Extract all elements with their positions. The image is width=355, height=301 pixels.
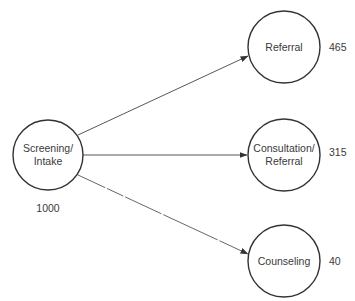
node-consultation-label-line2: Referral	[253, 155, 314, 168]
node-consultation-label: Consultation/ Referral	[253, 142, 314, 168]
edge-screening-to-counseling	[78, 175, 248, 254]
node-referral-label-line1: Referral	[265, 41, 302, 54]
node-screening-label: Screening/ Intake	[23, 142, 73, 168]
node-screening-count: 1000	[36, 202, 59, 214]
node-consultation-count: 315	[329, 146, 347, 158]
node-counseling-label: Counseling	[258, 255, 311, 268]
node-screening-label-line1: Screening/	[23, 142, 73, 155]
node-consultation-label-line1: Consultation/	[253, 142, 314, 155]
edge-screening-to-referral	[78, 56, 248, 135]
node-referral-count: 465	[329, 41, 347, 53]
node-screening-label-line2: Intake	[23, 155, 73, 168]
node-counseling-label-line1: Counseling	[258, 255, 311, 268]
node-counseling-count: 40	[329, 255, 341, 267]
node-referral-label: Referral	[265, 41, 302, 54]
